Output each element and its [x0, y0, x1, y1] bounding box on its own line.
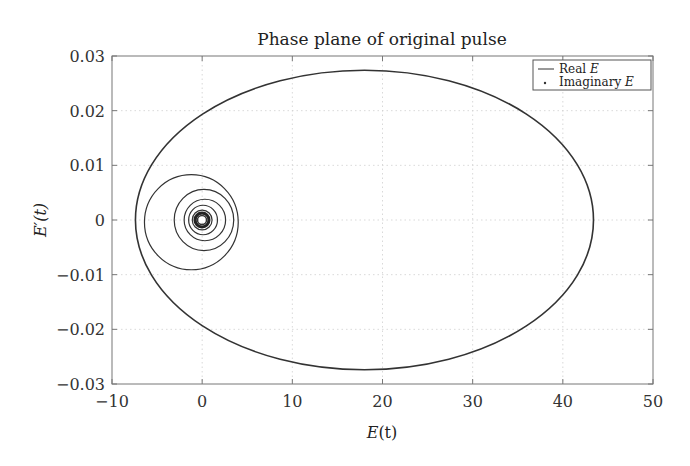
legend: Real E Imaginary E: [533, 60, 651, 90]
y-tick-label: 0.02: [69, 102, 105, 121]
y-tick-label: 0.01: [69, 156, 105, 175]
x-axis-ticks: −1001020304050: [95, 56, 663, 411]
legend-imaginary-label: Imaginary E: [559, 75, 634, 89]
chart-title: Phase plane of original pulse: [257, 29, 507, 49]
y-axis-label: E′(t): [31, 203, 50, 238]
y-tick-label: −0.03: [56, 375, 105, 394]
y-axis-ticks: 0.030.020.010−0.01−0.02−0.03: [56, 47, 653, 394]
phase-plane-chart: Phase plane of original pulse −100102030…: [0, 0, 690, 466]
y-tick-label: −0.02: [56, 320, 105, 339]
x-tick-label: 40: [553, 392, 573, 411]
y-tick-label: −0.01: [56, 266, 105, 285]
origin-spiral-core: [195, 213, 209, 227]
grid-lines: [112, 56, 653, 384]
x-tick-label: −10: [95, 392, 129, 411]
trajectory-loop: [144, 175, 238, 270]
x-tick-label: 10: [282, 392, 302, 411]
x-axis-label: E(t): [366, 423, 398, 442]
x-tick-label: 50: [643, 392, 663, 411]
x-tick-label: 0: [197, 392, 207, 411]
legend-real-label: Real E: [559, 62, 599, 76]
y-tick-label: 0: [95, 211, 105, 230]
legend-dot-icon: [544, 82, 546, 84]
y-tick-label: 0.03: [69, 47, 105, 66]
x-tick-label: 30: [462, 392, 482, 411]
x-tick-label: 20: [372, 392, 392, 411]
